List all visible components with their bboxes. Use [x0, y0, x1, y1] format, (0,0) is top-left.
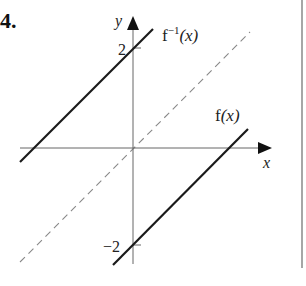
- inverse-function-graph: 4. x y 2 −2 f−1(x) f(x): [0, 0, 306, 286]
- dashed-line-y-equals-x: [20, 32, 250, 262]
- tick-label-neg-2: −2: [103, 238, 120, 255]
- y-axis-arrow-icon: [127, 16, 139, 30]
- x-axis-label: x: [262, 154, 270, 171]
- problem-number: 4.: [0, 8, 17, 33]
- inverse-function-label: f−1(x): [162, 24, 199, 45]
- x-axis-arrow-icon: [258, 142, 272, 154]
- function-label: f(x): [215, 106, 240, 125]
- tick-label-2: 2: [118, 41, 126, 58]
- y-axis-label: y: [113, 12, 123, 30]
